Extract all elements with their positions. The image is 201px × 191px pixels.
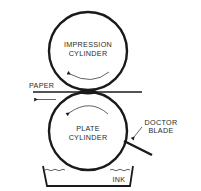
impression-cylinder-label-line1: IMPRESSION [64,40,112,49]
paper-label: PAPER [29,81,54,90]
doctor-blade-pointer-icon [134,127,142,137]
printing-press-diagram: IMPRESSION CYLINDER PAPER PLATE CYLINDER… [0,0,201,191]
impression-cylinder-label-line2: CYLINDER [69,49,108,58]
ink-label: INK [113,175,126,184]
plate-cylinder-label-line1: PLATE [76,124,100,133]
paper: PAPER [29,81,142,100]
plate-cylinder: PLATE CYLINDER [49,92,127,170]
impression-rotation-arrow-icon [70,72,109,80]
impression-cylinder: IMPRESSION CYLINDER [49,12,127,90]
doctor-blade: DOCTOR BLADE [124,118,177,155]
plate-cylinder-label-line2: CYLINDER [69,133,108,142]
doctor-blade-label-line2: BLADE [148,126,173,135]
plate-rotation-arrow-icon [69,106,108,114]
ink-surface-right-wave-icon [110,169,130,171]
ink-surface-left-wave-icon [45,169,65,171]
doctor-blade-line [124,141,152,155]
